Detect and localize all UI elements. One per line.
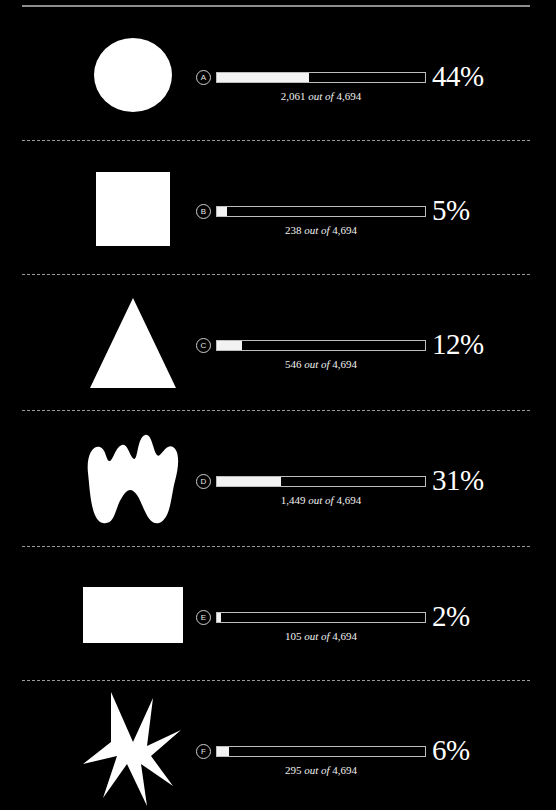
row-divider [22, 546, 530, 547]
progress-bar-fill [217, 747, 229, 756]
star-burst-shape [81, 690, 185, 808]
meter-cell: E 105 out of 4,694 [194, 548, 444, 682]
triangle-shape [90, 298, 176, 388]
meter-cell: C 546 out of 4,694 [194, 276, 444, 410]
row-badge-b: B [196, 204, 211, 219]
progress-bar-fill [217, 207, 227, 216]
progress-bar-track[interactable] [216, 612, 426, 623]
rectangle-shape [83, 587, 183, 643]
caption-count: 295 [285, 764, 302, 776]
caption-connector: out of [308, 90, 333, 102]
caption-total: 4,694 [332, 358, 357, 370]
progress-bar-fill [217, 341, 242, 350]
row-caption: 295 out of 4,694 [216, 764, 426, 776]
shape-square-cell [78, 142, 188, 276]
meter-cell: D 1,449 out of 4,694 [194, 412, 444, 546]
caption-total: 4,694 [332, 764, 357, 776]
caption-connector: out of [304, 630, 329, 642]
row-badge-c: C [196, 338, 211, 353]
row-badge-f: F [196, 744, 211, 759]
progress-bar-track[interactable] [216, 340, 426, 351]
table-row: E 105 out of 4,694 2% [0, 548, 556, 682]
progress-bar-fill [217, 613, 221, 622]
square-shape [96, 172, 170, 246]
circle-shape [93, 37, 173, 113]
caption-total: 4,694 [332, 224, 357, 236]
table-row: F 295 out of 4,694 6% [0, 682, 556, 810]
caption-total: 4,694 [336, 494, 361, 506]
shape-circle-cell [78, 8, 188, 142]
caption-count: 1,449 [281, 494, 306, 506]
row-caption: 238 out of 4,694 [216, 224, 426, 236]
meter-cell: A 2,061 out of 4,694 [194, 8, 444, 142]
progress-bar-track[interactable] [216, 746, 426, 757]
caption-count: 238 [285, 224, 302, 236]
row-divider [22, 680, 530, 681]
caption-connector: out of [308, 494, 333, 506]
meter-cell: B 238 out of 4,694 [194, 142, 444, 276]
row-caption: 546 out of 4,694 [216, 358, 426, 370]
row-caption: 105 out of 4,694 [216, 630, 426, 642]
row-caption: 2,061 out of 4,694 [216, 90, 426, 102]
progress-bar-track[interactable] [216, 72, 426, 83]
caption-connector: out of [304, 358, 329, 370]
row-divider [22, 140, 530, 141]
percent-value: 12% [432, 326, 542, 362]
row-divider [22, 274, 530, 275]
row-caption: 1,449 out of 4,694 [216, 494, 426, 506]
caption-total: 4,694 [332, 630, 357, 642]
caption-connector: out of [304, 224, 329, 236]
caption-connector: out of [304, 764, 329, 776]
table-row: B 238 out of 4,694 5% [0, 142, 556, 276]
shape-triangle-cell [78, 276, 188, 410]
row-badge-d: D [196, 474, 211, 489]
meter-cell: F 295 out of 4,694 [194, 682, 444, 810]
row-badge-e: E [196, 610, 211, 625]
row-divider [22, 410, 530, 411]
caption-total: 4,694 [336, 90, 361, 102]
blob-shape [81, 433, 185, 525]
percent-value: 6% [432, 732, 542, 768]
table-row: D 1,449 out of 4,694 31% [0, 412, 556, 546]
shape-rectangle-cell [78, 548, 188, 682]
progress-bar-fill [217, 73, 309, 82]
progress-bar-track[interactable] [216, 476, 426, 487]
top-rule [22, 5, 530, 7]
shape-blob-cell [78, 412, 188, 546]
caption-count: 105 [285, 630, 302, 642]
percent-value: 31% [432, 462, 542, 498]
table-row: C 546 out of 4,694 12% [0, 276, 556, 410]
progress-bar-track[interactable] [216, 206, 426, 217]
progress-bar-fill [217, 477, 281, 486]
caption-count: 546 [285, 358, 302, 370]
percent-value: 44% [432, 58, 542, 94]
shape-star-cell [78, 682, 188, 810]
caption-count: 2,061 [281, 90, 306, 102]
percent-value: 5% [432, 192, 542, 228]
table-row: A 2,061 out of 4,694 44% [0, 8, 556, 142]
row-badge-a: A [196, 70, 211, 85]
percent-value: 2% [432, 598, 542, 634]
